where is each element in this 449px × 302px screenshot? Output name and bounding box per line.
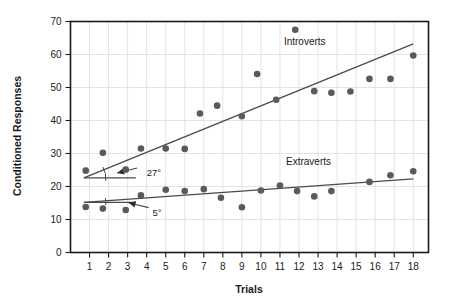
data-point-introverts <box>122 166 129 173</box>
data-point-introverts <box>311 88 318 95</box>
x-tick-label: 4 <box>144 261 150 272</box>
data-point-introverts <box>100 150 107 157</box>
x-tick-label: 2 <box>106 261 112 272</box>
x-tick-label: 7 <box>201 261 207 272</box>
gridlines <box>71 22 429 253</box>
x-axis-ticks: 123456789101112131415161718 <box>87 253 420 272</box>
data-point-extraverts <box>387 172 394 179</box>
x-axis-title: Trials <box>235 283 263 295</box>
x-tick-label: 9 <box>239 261 245 272</box>
x-tick-label: 14 <box>332 261 344 272</box>
data-point-extraverts <box>410 168 417 175</box>
data-point-introverts <box>181 146 188 153</box>
data-point-introverts <box>82 167 89 174</box>
introverts-angle-label: 27° <box>147 167 162 178</box>
data-point-introverts <box>366 76 373 83</box>
data-point-introverts <box>239 113 246 120</box>
plot-frame <box>71 22 429 253</box>
plot-border <box>71 22 429 253</box>
series-label-extraverts: Extraverts <box>286 156 331 167</box>
data-point-introverts <box>214 102 221 109</box>
y-tick-label: 60 <box>50 49 62 60</box>
data-point-extraverts <box>122 207 129 214</box>
data-point-extraverts <box>162 187 169 194</box>
data-point-introverts <box>347 88 354 95</box>
data-point-introverts <box>254 71 261 78</box>
y-tick-label: 20 <box>50 181 62 192</box>
data-point-extraverts <box>100 205 107 212</box>
y-axis-ticks: 010203040506070 <box>50 16 70 258</box>
trendline-extraverts <box>84 179 413 202</box>
x-tick-label: 16 <box>370 261 382 272</box>
data-point-introverts <box>410 52 417 59</box>
data-point-extraverts <box>200 186 207 193</box>
data-point-introverts <box>162 145 169 152</box>
data-point-extraverts <box>311 193 318 200</box>
data-point-introverts <box>273 96 280 103</box>
scatter-chart: 123456789101112131415161718 010203040506… <box>0 0 449 302</box>
data-point-extraverts <box>277 182 284 189</box>
data-point-extraverts <box>258 187 265 194</box>
data-point-extraverts <box>239 204 246 211</box>
x-tick-label: 12 <box>293 261 305 272</box>
trendlines <box>84 44 413 202</box>
x-tick-label: 11 <box>275 261 286 272</box>
data-point-extraverts <box>82 204 89 211</box>
data-point-extraverts <box>328 188 335 195</box>
y-axis-title: Conditioned Responses <box>11 76 23 196</box>
data-point-extraverts <box>181 188 188 195</box>
data-point-extraverts <box>294 188 301 195</box>
data-point-extraverts <box>218 194 225 201</box>
extraverts-angle-label: 5° <box>152 207 161 218</box>
x-tick-label: 18 <box>408 261 420 272</box>
x-tick-label: 10 <box>255 261 267 272</box>
x-tick-label: 13 <box>312 261 324 272</box>
x-tick-label: 5 <box>163 261 169 272</box>
y-tick-label: 0 <box>56 247 62 258</box>
data-point-introverts <box>328 89 335 96</box>
data-point-extraverts <box>366 179 373 186</box>
series-label-introverts: Introverts <box>284 36 326 47</box>
y-tick-label: 50 <box>50 82 62 93</box>
x-tick-label: 3 <box>125 261 131 272</box>
trendline-introverts <box>84 44 413 178</box>
data-point-extraverts <box>138 192 145 199</box>
y-tick-label: 30 <box>50 148 62 159</box>
chart-container: 123456789101112131415161718 010203040506… <box>0 0 449 302</box>
x-tick-label: 17 <box>389 261 401 272</box>
data-point-introverts <box>138 145 145 152</box>
data-point-introverts <box>387 76 394 83</box>
x-tick-label: 8 <box>220 261 226 272</box>
y-tick-label: 70 <box>50 16 62 27</box>
data-point-introverts <box>197 110 204 117</box>
x-tick-label: 6 <box>182 261 188 272</box>
data-point-introverts <box>292 26 299 33</box>
x-tick-label: 15 <box>351 261 363 272</box>
x-tick-label: 1 <box>87 261 93 272</box>
y-tick-label: 40 <box>50 115 62 126</box>
series-labels: IntrovertsExtraverts <box>284 36 331 167</box>
y-tick-label: 10 <box>50 214 62 225</box>
